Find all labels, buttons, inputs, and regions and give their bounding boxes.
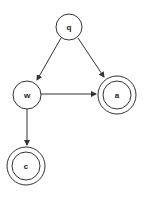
state-label-a: a	[115, 91, 120, 100]
edge-q-to-w	[37, 38, 61, 80]
state-diagram: q w a c	[0, 0, 144, 199]
accepting-state-node-c: c	[7, 147, 45, 185]
edge-q-to-a	[78, 38, 104, 77]
state-label-w: w	[23, 91, 31, 100]
accepting-state-node-a: a	[98, 76, 136, 114]
state-label-q: q	[67, 23, 72, 32]
state-node-w: w	[13, 81, 41, 109]
state-node-q: q	[56, 14, 82, 40]
state-label-c: c	[24, 162, 29, 171]
